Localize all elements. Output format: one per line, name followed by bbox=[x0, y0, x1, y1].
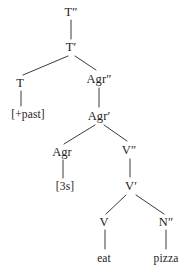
tree-node-t0: T bbox=[16, 77, 24, 90]
tree-node-pizza: pizza bbox=[154, 252, 179, 265]
tree-node-eat: eat bbox=[97, 252, 111, 265]
tree-edge-v1-to-n2 bbox=[136, 195, 164, 214]
tree-node-past: [+past] bbox=[11, 108, 44, 121]
tree-node-agr2: Agr″ bbox=[86, 73, 111, 86]
tree-node-t2: T″ bbox=[64, 6, 77, 19]
tree-node-agr1: Agr′ bbox=[88, 110, 111, 123]
tree-node-3s: [3s] bbox=[56, 180, 74, 193]
tree-node-v0: V bbox=[99, 216, 108, 229]
tree-edge-agr1-to-v2 bbox=[104, 125, 127, 141]
tree-edge-t1-to-agr2 bbox=[75, 56, 96, 70]
tree-edge-agr1-to-agr0 bbox=[64, 125, 95, 144]
tree-node-v2: V″ bbox=[122, 144, 136, 157]
syntax-tree-figure: T″T′T[+past]Agr″Agr′Agr[3s]V″V′VeatN″piz… bbox=[0, 0, 192, 272]
tree-edges-group bbox=[0, 0, 192, 272]
tree-node-v1: V′ bbox=[125, 180, 137, 193]
tree-edge-t1-to-t0 bbox=[23, 56, 68, 75]
tree-edge-v1-to-v0 bbox=[106, 195, 126, 214]
tree-node-n2: N″ bbox=[159, 216, 173, 229]
tree-node-agr0: Agr bbox=[52, 146, 72, 159]
tree-node-t1: T′ bbox=[66, 41, 77, 54]
